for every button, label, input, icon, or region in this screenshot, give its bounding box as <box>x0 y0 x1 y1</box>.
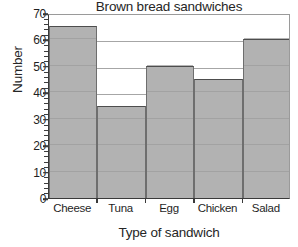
gridline <box>244 118 290 119</box>
y-axis-minor-tick <box>44 177 48 178</box>
y-axis-minor-tick <box>44 66 48 67</box>
gridline <box>147 171 193 172</box>
y-axis-minor-tick <box>44 77 48 78</box>
y-axis-minor-tick <box>44 29 48 30</box>
y-axis-minor-tick <box>44 98 48 99</box>
y-axis-tick-label: 0 <box>16 192 46 206</box>
y-axis-minor-tick <box>44 103 48 104</box>
gridline <box>244 144 290 145</box>
y-axis-minor-tick <box>44 151 48 152</box>
y-axis-tick-label: 30 <box>16 113 46 127</box>
y-axis-minor-tick <box>44 72 48 73</box>
y-axis-minor-tick <box>44 19 48 20</box>
y-axis-minor-tick <box>44 146 48 147</box>
gridline <box>98 118 144 119</box>
bar <box>146 66 194 198</box>
gridline <box>147 144 193 145</box>
y-axis-tick-label: 40 <box>16 86 46 100</box>
gridline <box>50 144 96 145</box>
y-axis-minor-tick <box>44 14 48 15</box>
gridline <box>50 118 96 119</box>
x-axis-tick-mark <box>193 199 195 203</box>
gridline <box>50 91 96 92</box>
y-axis-tick-label: 50 <box>16 60 46 74</box>
gridline <box>195 144 241 145</box>
gridline <box>244 91 290 92</box>
chart-title: Brown bread sandwiches <box>48 0 290 14</box>
x-axis-tick-mark <box>242 199 244 203</box>
gridline <box>98 144 144 145</box>
y-axis-tick-label: 60 <box>16 33 46 47</box>
bar <box>49 26 97 198</box>
y-axis-minor-tick <box>44 45 48 46</box>
y-axis-minor-tick <box>44 119 48 120</box>
y-axis-minor-tick <box>44 135 48 136</box>
y-axis-minor-tick <box>44 24 48 25</box>
y-axis-minor-tick <box>44 88 48 89</box>
gridline <box>147 118 193 119</box>
gridline <box>50 171 96 172</box>
bar <box>97 106 145 199</box>
y-axis-minor-tick <box>44 199 48 200</box>
y-axis-tick-label: 10 <box>16 166 46 180</box>
y-axis-minor-tick <box>44 109 48 110</box>
gridline <box>244 65 290 66</box>
x-axis-tick-mark <box>96 199 98 203</box>
bar <box>243 39 290 198</box>
gridline <box>244 38 290 39</box>
y-axis-minor-tick <box>44 167 48 168</box>
y-axis-minor-tick <box>44 193 48 194</box>
y-axis-minor-tick <box>44 40 48 41</box>
gridline <box>147 91 193 92</box>
bar <box>194 79 242 198</box>
y-axis-minor-tick <box>44 172 48 173</box>
x-axis-title: Type of sandwich <box>48 225 290 240</box>
x-axis-tick-mark <box>145 199 147 203</box>
y-axis-minor-tick <box>44 140 48 141</box>
gridline <box>244 171 290 172</box>
x-axis-tick-label: Cheese <box>48 202 96 214</box>
y-axis-minor-tick <box>44 51 48 52</box>
y-axis-minor-tick <box>44 61 48 62</box>
plot-area <box>48 14 290 199</box>
y-axis-tick-label: 20 <box>16 139 46 153</box>
y-axis-minor-tick <box>44 56 48 57</box>
gridline <box>50 38 96 39</box>
gridline <box>195 91 241 92</box>
x-axis-tick-label: Tuna <box>96 202 144 214</box>
y-axis-minor-tick <box>44 188 48 189</box>
y-axis-minor-tick <box>44 130 48 131</box>
gridline <box>147 65 193 66</box>
y-axis-minor-tick <box>44 93 48 94</box>
x-axis-tick-label: Chicken <box>193 202 241 214</box>
y-axis-minor-tick <box>44 156 48 157</box>
y-axis-minor-tick <box>44 82 48 83</box>
y-axis-minor-tick <box>44 35 48 36</box>
gridline <box>195 171 241 172</box>
x-axis-tick-label: Salad <box>242 202 290 214</box>
y-axis-tick-label: 70 <box>16 7 46 21</box>
bar-chart-figure: Brown bread sandwiches Number Type of sa… <box>0 0 298 247</box>
gridline <box>98 171 144 172</box>
y-axis-minor-tick <box>44 114 48 115</box>
gridline <box>195 118 241 119</box>
y-axis-minor-tick <box>44 162 48 163</box>
gridline <box>50 65 96 66</box>
y-axis-minor-tick <box>44 183 48 184</box>
x-axis-tick-label: Egg <box>145 202 193 214</box>
y-axis-minor-tick <box>44 125 48 126</box>
